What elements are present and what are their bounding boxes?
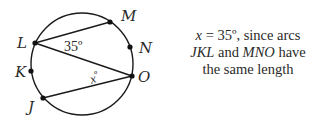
caption-line-2: JKL and MNO have (178, 44, 318, 61)
chord-LO (35, 43, 132, 76)
point-N (127, 44, 132, 49)
point-L (32, 40, 37, 45)
explanation-text: x = 35º, since arcs JKL and MNO have the… (178, 27, 318, 78)
caption-line-3: the same length (178, 61, 318, 78)
caption-line-1-text: = 35º, since arcs (202, 27, 300, 43)
label-L: L (16, 34, 27, 52)
arc-JKL: JKL (190, 44, 214, 60)
point-M (107, 19, 112, 24)
angle-label-35: 35º (64, 39, 83, 54)
point-J (40, 95, 45, 100)
label-N: N (138, 39, 153, 57)
arc-MNO: MNO (243, 44, 275, 60)
caption-line-1: x = 35º, since arcs (178, 27, 318, 44)
label-K: K (14, 63, 27, 81)
chord-JO (43, 76, 132, 98)
label-J: J (25, 98, 35, 116)
caption-line-2-rest: have (275, 44, 306, 60)
caption-line-2-mid: and (214, 44, 242, 60)
point-K (28, 68, 33, 73)
circle (31, 13, 133, 115)
label-M: M (120, 7, 137, 25)
point-O (129, 73, 134, 78)
label-O: O (138, 68, 150, 86)
circle-diagram: L M N O K J 35º xº (0, 0, 165, 121)
